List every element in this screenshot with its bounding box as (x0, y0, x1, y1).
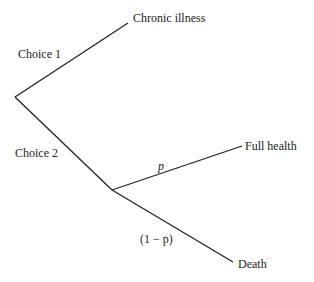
label-choice-1: Choice 1 (18, 48, 61, 60)
prob-p: p (158, 160, 164, 172)
branch-full-health (112, 146, 242, 190)
outcome-death: Death (238, 258, 267, 270)
branch-choice-2 (15, 97, 112, 190)
label-choice-2: Choice 2 (15, 147, 58, 159)
branch-death (112, 190, 233, 262)
prob-1-minus-p: (1 − p) (140, 233, 173, 245)
outcome-full-health: Full health (245, 140, 297, 152)
outcome-chronic-illness: Chronic illness (133, 12, 205, 24)
